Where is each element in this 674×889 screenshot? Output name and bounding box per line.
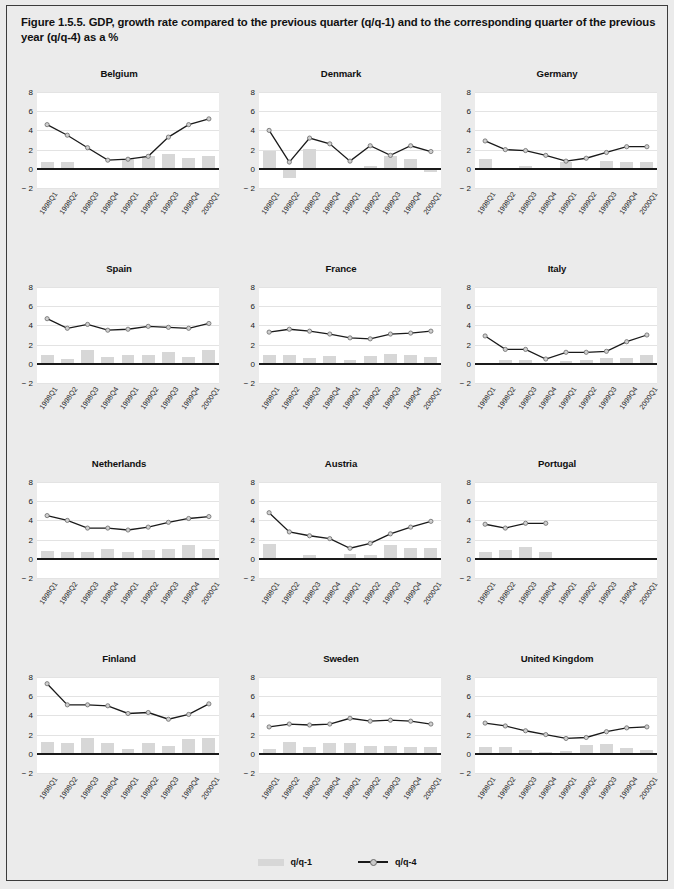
panel-row: Belgium86420− 21998Q11998Q21998Q31998Q41… <box>7 64 667 259</box>
y-gridline <box>475 773 657 774</box>
y-axis-tick-label: 8 <box>29 673 33 682</box>
y-axis-tick-label: 2 <box>29 535 33 544</box>
y-axis-tick-label: 2 <box>251 145 255 154</box>
y-axis-tick-label: 4 <box>29 126 33 135</box>
legend-label: q/q-4 <box>395 857 417 867</box>
x-axis-tick-label: 1999Q2 <box>139 190 161 216</box>
legend-bar-swatch-icon <box>258 859 284 866</box>
y-axis-tick-label: 8 <box>29 283 33 292</box>
panel-title: France <box>231 263 451 274</box>
y-axis-tick-label: 2 <box>467 730 471 739</box>
plot-area: 86420− 2 <box>259 482 441 578</box>
y-axis-tick-label: 8 <box>467 673 471 682</box>
x-axis-tick-label: 1999Q1 <box>118 580 140 606</box>
x-axis-tick-label: 1999Q4 <box>179 190 201 216</box>
x-axis-tick-label: 1999Q3 <box>597 385 619 411</box>
line-qq4 <box>475 482 657 578</box>
x-axis-tick-label: 1999Q2 <box>139 580 161 606</box>
panel-title: Germany <box>447 68 667 79</box>
x-axis-tick-label: 1999Q1 <box>118 190 140 216</box>
x-axis-tick-label: 1998Q2 <box>58 385 80 411</box>
panel-title: Austria <box>231 458 451 469</box>
y-axis-tick-label: 0 <box>29 554 33 563</box>
x-axis-tick-label: 1999Q3 <box>159 775 181 801</box>
y-gridline <box>475 383 657 384</box>
y-axis-tick-label: − 2 <box>460 184 471 193</box>
y-axis-tick-label: − 2 <box>244 379 255 388</box>
x-axis-tick-label: 1998Q4 <box>320 190 342 216</box>
x-axis-tick-label: 1999Q2 <box>361 190 383 216</box>
y-axis-tick-label: 0 <box>467 749 471 758</box>
y-axis-tick-label: − 2 <box>460 379 471 388</box>
x-axis-tick-label: 1999Q4 <box>179 385 201 411</box>
x-axis-tick-label: 1998Q2 <box>280 775 302 801</box>
y-axis-tick-label: 8 <box>251 88 255 97</box>
panel-title: Denmark <box>231 68 451 79</box>
figure-title: Figure 1.5.5. GDP, growth rate compared … <box>21 15 661 45</box>
panel-title: Finland <box>9 653 229 664</box>
chart-panel-france: France86420− 21998Q11998Q21998Q31998Q419… <box>231 259 451 454</box>
line-qq4 <box>475 677 657 773</box>
panel-title: Netherlands <box>9 458 229 469</box>
y-axis-tick-label: 6 <box>251 497 255 506</box>
y-axis-tick-label: − 2 <box>460 574 471 583</box>
legend-item-qq-4: q/q-4 <box>358 857 417 867</box>
y-axis-tick-label: − 2 <box>22 574 33 583</box>
y-axis-tick-label: 2 <box>29 730 33 739</box>
line-qq4 <box>37 92 219 188</box>
x-axis-tick-label: 1999Q3 <box>597 190 619 216</box>
x-axis-labels: 1998Q11998Q21998Q31998Q41999Q11999Q21999… <box>259 775 441 841</box>
x-axis-tick-label: 2000Q1 <box>637 775 659 801</box>
x-axis-tick-label: 1999Q4 <box>401 190 423 216</box>
panel-row: Netherlands86420− 21998Q11998Q21998Q3199… <box>7 454 667 649</box>
y-axis-tick-label: − 2 <box>22 184 33 193</box>
chart-panel-sweden: Sweden86420− 21998Q11998Q21998Q31998Q419… <box>231 649 451 844</box>
x-axis-tick-label: 1998Q1 <box>37 775 59 801</box>
x-axis-tick-label: 1998Q3 <box>516 190 538 216</box>
chart-panel-finland: Finland86420− 21998Q11998Q21998Q31998Q41… <box>9 649 229 844</box>
x-axis-tick-label: 1999Q3 <box>381 775 403 801</box>
y-axis-tick-label: 4 <box>467 516 471 525</box>
x-axis-tick-label: 1998Q3 <box>516 775 538 801</box>
y-axis-tick-label: 6 <box>251 692 255 701</box>
x-axis-tick-label: 1999Q3 <box>381 580 403 606</box>
plot-area: 86420− 2 <box>475 482 657 578</box>
x-axis-tick-label: 1999Q1 <box>556 190 578 216</box>
plot-area: 86420− 2 <box>475 92 657 188</box>
y-axis-tick-label: 4 <box>467 321 471 330</box>
plot-area: 86420− 2 <box>259 92 441 188</box>
y-gridline <box>259 383 441 384</box>
y-axis-tick-label: 8 <box>467 88 471 97</box>
x-axis-tick-label: 1998Q2 <box>280 385 302 411</box>
x-axis-tick-label: 1999Q4 <box>401 580 423 606</box>
panel-title: Sweden <box>231 653 451 664</box>
plot-area: 86420− 2 <box>37 92 219 188</box>
y-axis-tick-label: 8 <box>467 478 471 487</box>
x-axis-tick-label: 1998Q4 <box>536 190 558 216</box>
x-axis-tick-label: 1998Q1 <box>475 190 497 216</box>
y-axis-tick-label: 0 <box>29 164 33 173</box>
y-axis-tick-label: 4 <box>251 321 255 330</box>
x-axis-tick-label: 2000Q1 <box>421 190 443 216</box>
y-axis-tick-label: 8 <box>251 478 255 487</box>
x-axis-tick-label: 1999Q1 <box>118 385 140 411</box>
y-axis-tick-label: 4 <box>29 516 33 525</box>
x-axis-tick-label: 1998Q1 <box>37 580 59 606</box>
chart-panel-belgium: Belgium86420− 21998Q11998Q21998Q31998Q41… <box>9 64 229 259</box>
x-axis-tick-label: 1999Q4 <box>401 775 423 801</box>
chart-panel-portugal: Portugal86420− 21998Q11998Q21998Q31998Q4… <box>447 454 667 649</box>
x-axis-tick-label: 1998Q4 <box>536 580 558 606</box>
x-axis-tick-label: 1999Q1 <box>340 190 362 216</box>
x-axis-tick-label: 2000Q1 <box>199 775 221 801</box>
panel-title: Belgium <box>9 68 229 79</box>
x-axis-tick-label: 1998Q4 <box>536 385 558 411</box>
chart-panel-denmark: Denmark86420− 21998Q11998Q21998Q31998Q41… <box>231 64 451 259</box>
x-axis-tick-label: 1998Q1 <box>259 385 281 411</box>
line-qq4 <box>475 92 657 188</box>
y-axis-tick-label: − 2 <box>244 574 255 583</box>
y-gridline <box>259 578 441 579</box>
x-axis-tick-label: 1998Q3 <box>78 775 100 801</box>
x-axis-tick-label: 1998Q4 <box>98 190 120 216</box>
plot-area: 86420− 2 <box>259 677 441 773</box>
figure-page: Figure 1.5.5. GDP, growth rate compared … <box>0 0 674 889</box>
